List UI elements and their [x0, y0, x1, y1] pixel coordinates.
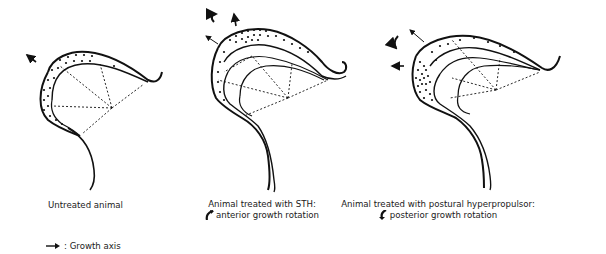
caption-sth-line1: Animal treated with STH:: [198, 199, 326, 210]
caption-sth-line2-row: anterior growth rotation: [198, 210, 326, 221]
panel-untreated-drawing: [27, 52, 162, 190]
caption-hyperpropulsor-line1: Animal treated with postural hyperpropul…: [338, 199, 538, 210]
caption-untreated: Untreated animal: [48, 200, 123, 211]
growth-axis-arrow-icon: [46, 243, 60, 249]
panel-hyperpropulsor-drawing: [392, 30, 560, 190]
caption-untreated-line1: Untreated animal: [48, 200, 123, 210]
posterior-rotation-arrow-icon: [379, 210, 388, 220]
panel-sth-drawing: [206, 14, 346, 192]
caption-sth: Animal treated with STH: anterior growth…: [198, 199, 326, 221]
anterior-rotation-arrow-icon: [205, 210, 214, 220]
caption-hyperpropulsor-line2-row: posterior growth rotation: [338, 210, 538, 221]
legend-label: : Growth axis: [64, 241, 121, 251]
legend: : Growth axis: [46, 241, 121, 251]
caption-hyperpropulsor-line2: posterior growth rotation: [390, 210, 498, 220]
caption-sth-line2: anterior growth rotation: [216, 210, 319, 220]
caption-hyperpropulsor: Animal treated with postural hyperpropul…: [338, 199, 538, 221]
